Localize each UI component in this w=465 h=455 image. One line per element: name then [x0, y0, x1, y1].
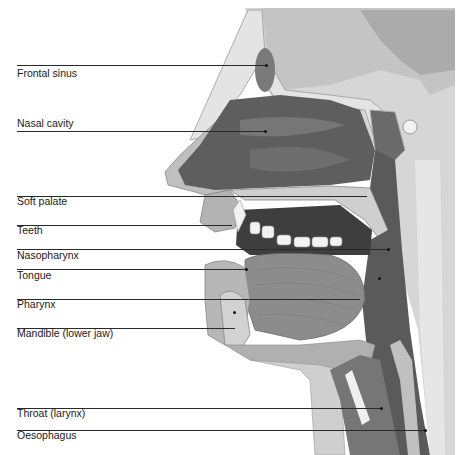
pointer-nasopharynx: [387, 248, 390, 251]
label-pharynx: Pharynx: [17, 298, 56, 310]
label-teeth: Teeth: [17, 224, 43, 236]
label-nasal-cavity: Nasal cavity: [17, 117, 74, 129]
label-nasopharynx: Nasopharynx: [17, 249, 79, 261]
label-soft-palate: Soft palate: [17, 195, 67, 207]
label-frontal-sinus: Frontal sinus: [17, 67, 77, 79]
pointer-oesophagus: [424, 429, 427, 432]
leader-oesophagus: [17, 430, 426, 431]
leader-soft-palate: [17, 196, 367, 197]
pointer-nasal-cavity: [264, 130, 267, 133]
pointer-frontal-sinus: [265, 64, 268, 67]
tongue-shape: [245, 253, 365, 340]
leader-teeth: [17, 225, 232, 226]
frontal-sinus-shape: [255, 48, 275, 92]
pointer-throat: [380, 407, 383, 410]
pointer-mandible: [233, 311, 236, 314]
label-throat: Throat (larynx): [17, 407, 85, 419]
pointer-pharynx: [378, 277, 381, 280]
label-oesophagus: Oesophagus: [17, 429, 77, 441]
pointer-tongue: [245, 268, 248, 271]
label-mandible: Mandible (lower jaw): [17, 327, 113, 339]
leader-pharynx: [17, 299, 360, 300]
label-tongue: Tongue: [17, 269, 51, 281]
leader-frontal-sinus: [17, 65, 266, 66]
pituitary: [403, 120, 417, 134]
leader-nasal-cavity: [17, 131, 266, 132]
